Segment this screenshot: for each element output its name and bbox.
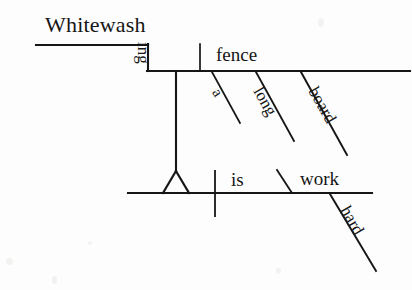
stand-triangle-right-leg [176,171,189,193]
diagram-line-art [0,0,412,290]
sentence-diagram-canvas: Whitewash ing fence a long board is work… [0,0,412,290]
stand-triangle-left-leg [163,171,176,193]
modifier-long-slant [256,72,294,141]
modifier-a-slant [212,72,240,123]
predicate-noun-slant [277,170,292,193]
modifier-board-slant [301,72,347,155]
modifier-hard-slant [330,194,376,271]
